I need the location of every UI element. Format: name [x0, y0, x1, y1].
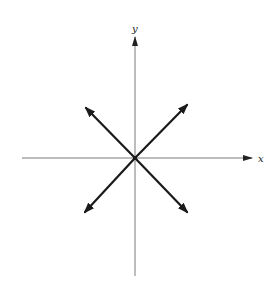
origin-point	[133, 156, 137, 160]
vector-down-right-arrow-icon	[135, 158, 187, 212]
x-axis-label: x	[258, 153, 264, 164]
vector-up-left-arrow-icon	[86, 108, 135, 158]
vector-up-right-arrow-icon	[135, 105, 187, 158]
y-axis-label: y	[131, 23, 138, 34]
vector-down-left-arrow-icon	[85, 158, 135, 212]
coordinate-diagram: y x	[0, 0, 280, 284]
